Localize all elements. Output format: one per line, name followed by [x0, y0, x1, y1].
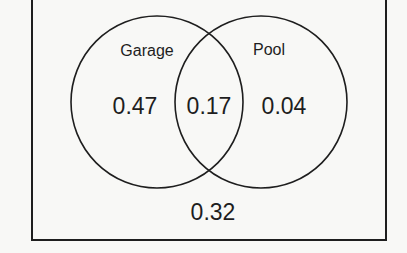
pool-only-value: 0.04 [262, 93, 307, 119]
outside-value: 0.32 [191, 199, 236, 225]
pool-label: Pool [253, 41, 285, 58]
garage-label: Garage [120, 42, 173, 59]
garage-only-value: 0.47 [113, 93, 158, 119]
venn-diagram: Garage Pool 0.47 0.17 0.04 0.32 [0, 0, 407, 253]
intersection-value: 0.17 [187, 93, 232, 119]
